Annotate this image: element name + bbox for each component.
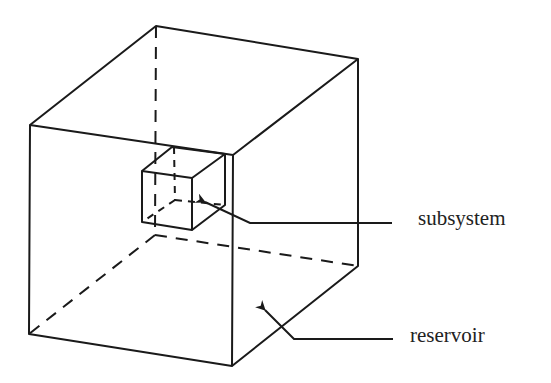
reservoir-cube <box>29 26 358 366</box>
reservoir-front-face <box>29 125 233 366</box>
reservoir-top-face <box>30 26 358 155</box>
subsystem-front-face <box>142 171 192 230</box>
reservoir-right-face <box>232 59 358 366</box>
reservoir-label: reservoir <box>410 323 485 348</box>
subsystem-label: subsystem <box>418 206 506 231</box>
reservoir-hidden-edges <box>29 26 358 334</box>
